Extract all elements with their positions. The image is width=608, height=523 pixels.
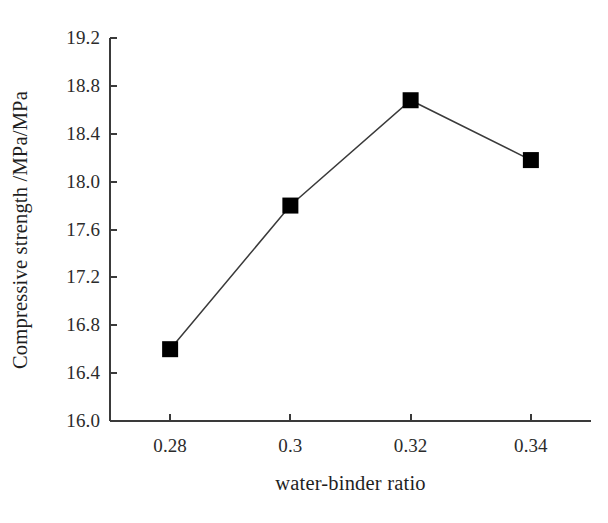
data-point-marker xyxy=(282,198,298,214)
y-tick-label: 17.6 xyxy=(34,219,100,241)
y-tick-label: 17.2 xyxy=(34,266,100,288)
x-axis-title: water-binder ratio xyxy=(110,472,591,495)
axis-lines xyxy=(110,38,591,421)
chart-figure: 16.016.416.817.217.618.018.418.819.2 0.2… xyxy=(0,0,608,523)
data-point-marker xyxy=(162,341,178,357)
y-axis-title: Compressive strength /MPa/MPa xyxy=(9,91,32,369)
y-tick-label: 19.2 xyxy=(34,27,100,49)
y-tick-label: 18.0 xyxy=(34,171,100,193)
data-point-marker xyxy=(403,92,419,108)
x-tick-label: 0.3 xyxy=(278,435,302,457)
data-markers xyxy=(162,92,539,357)
y-tick-label: 16.4 xyxy=(34,362,100,384)
data-line xyxy=(170,100,531,349)
x-tick-label: 0.32 xyxy=(394,435,428,457)
y-tick-label: 18.8 xyxy=(34,75,100,97)
y-axis-ticks xyxy=(110,38,117,421)
y-tick-label: 16.0 xyxy=(34,410,100,432)
x-tick-label: 0.28 xyxy=(153,435,187,457)
x-tick-label: 0.34 xyxy=(514,435,548,457)
y-tick-label: 16.8 xyxy=(34,314,100,336)
y-tick-label: 18.4 xyxy=(34,123,100,145)
data-point-marker xyxy=(523,152,539,168)
